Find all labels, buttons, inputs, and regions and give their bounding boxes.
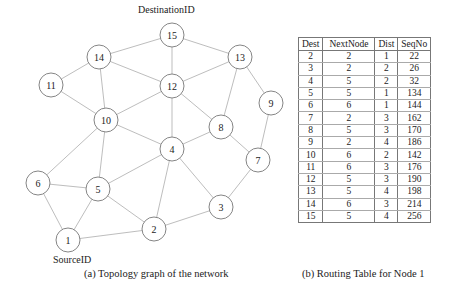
table-cell-dest: 6 xyxy=(299,100,323,112)
node-label: 13 xyxy=(235,52,245,63)
node-12: 12 xyxy=(160,74,184,98)
node-14: 14 xyxy=(87,45,111,69)
table-cell-seqno: 134 xyxy=(398,87,431,99)
table-cell-dest: 10 xyxy=(299,149,323,161)
table-cell-dist: 3 xyxy=(375,112,398,124)
node-4: 4 xyxy=(160,137,184,161)
table-cell-seqno: 198 xyxy=(398,186,431,198)
table-cell-dest: 7 xyxy=(299,112,323,124)
node-label: 4 xyxy=(170,144,175,155)
table-cell-dist: 4 xyxy=(375,137,398,149)
node-label: 9 xyxy=(269,98,274,109)
table-row: 1062142 xyxy=(299,149,431,161)
table-cell-nextnode: 6 xyxy=(323,161,375,173)
table-cell-dest: 3 xyxy=(299,63,323,75)
table-cell-dist: 1 xyxy=(375,51,398,63)
column-header-seqno: SeqNo xyxy=(398,38,431,51)
table-cell-dest: 8 xyxy=(299,124,323,136)
table-cell-seqno: 162 xyxy=(398,112,431,124)
table-row: 1354198 xyxy=(299,186,431,198)
node-9: 9 xyxy=(259,91,283,115)
table-cell-dest: 13 xyxy=(299,186,323,198)
node-label: 14 xyxy=(94,52,104,63)
table-cell-seqno: 176 xyxy=(398,161,431,173)
node-label: 8 xyxy=(219,122,224,133)
node-6: 6 xyxy=(26,171,50,195)
table-row: 1554256 xyxy=(299,210,431,222)
node-label: 3 xyxy=(219,202,224,213)
node-1: 1 xyxy=(56,228,80,252)
node-label: 6 xyxy=(36,178,41,189)
node-15: 15 xyxy=(160,23,184,47)
table-cell-dest: 9 xyxy=(299,137,323,149)
table-row: 22122 xyxy=(299,51,431,63)
routing-table: Dest NextNode Dist SeqNo 221223222645232… xyxy=(298,37,431,223)
table-cell-seqno: 170 xyxy=(398,124,431,136)
node-label: 10 xyxy=(101,115,111,126)
edge-10-6 xyxy=(38,120,106,183)
table-cell-dist: 3 xyxy=(375,124,398,136)
table-cell-dist: 4 xyxy=(375,186,398,198)
table-cell-nextnode: 5 xyxy=(323,186,375,198)
column-header-dist: Dist xyxy=(375,38,398,51)
table-row: 924186 xyxy=(299,137,431,149)
topology-graph: 123456789101112131415 xyxy=(0,0,300,287)
table-cell-nextnode: 2 xyxy=(323,112,375,124)
table-cell-nextnode: 6 xyxy=(323,198,375,210)
node-label: 7 xyxy=(256,155,261,166)
table-cell-seqno: 144 xyxy=(398,100,431,112)
node-label: 2 xyxy=(152,224,157,235)
table-row: 723162 xyxy=(299,112,431,124)
table-cell-nextnode: 5 xyxy=(323,210,375,222)
table-cell-dest: 14 xyxy=(299,198,323,210)
table-cell-seqno: 256 xyxy=(398,210,431,222)
table-cell-nextnode: 2 xyxy=(323,51,375,63)
table-cell-seqno: 190 xyxy=(398,173,431,185)
destination-label: DestinationID xyxy=(138,4,195,15)
edge-2-1 xyxy=(68,229,154,240)
column-header-nextnode: NextNode xyxy=(323,38,375,51)
table-row: 661144 xyxy=(299,100,431,112)
node-10: 10 xyxy=(94,108,118,132)
table-cell-dist: 3 xyxy=(375,173,398,185)
table-cell-dest: 15 xyxy=(299,210,323,222)
table-cell-seqno: 22 xyxy=(398,51,431,63)
table-cell-dist: 3 xyxy=(375,161,398,173)
node-label: 5 xyxy=(96,184,101,195)
table-cell-dest: 5 xyxy=(299,87,323,99)
table-cell-dest: 12 xyxy=(299,173,323,185)
table-cell-dist: 2 xyxy=(375,149,398,161)
table-cell-nextnode: 5 xyxy=(323,173,375,185)
table-cell-nextnode: 5 xyxy=(323,124,375,136)
table-row: 551134 xyxy=(299,87,431,99)
table-cell-seqno: 142 xyxy=(398,149,431,161)
node-label: 12 xyxy=(167,81,177,92)
table-cell-seqno: 32 xyxy=(398,75,431,87)
table-row: 853170 xyxy=(299,124,431,136)
table-cell-nextnode: 6 xyxy=(323,149,375,161)
node-8: 8 xyxy=(209,115,233,139)
table-cell-dest: 11 xyxy=(299,161,323,173)
table-cell-dist: 3 xyxy=(375,198,398,210)
table-caption: (b) Routing Table for Node 1 xyxy=(302,268,424,279)
table-header-row: Dest NextNode Dist SeqNo xyxy=(299,38,431,51)
source-label: SourceID xyxy=(53,254,91,265)
table-cell-nextnode: 5 xyxy=(323,75,375,87)
table-cell-dist: 2 xyxy=(375,63,398,75)
table-row: 1463214 xyxy=(299,198,431,210)
table-cell-dest: 2 xyxy=(299,51,323,63)
node-label: 15 xyxy=(167,30,177,41)
node-5: 5 xyxy=(86,177,110,201)
table-cell-dist: 2 xyxy=(375,75,398,87)
table-cell-nextnode: 2 xyxy=(323,137,375,149)
table-row: 45232 xyxy=(299,75,431,87)
table-cell-dist: 1 xyxy=(375,100,398,112)
edge-4-5 xyxy=(98,149,172,189)
column-header-dest: Dest xyxy=(299,38,323,51)
node-11: 11 xyxy=(39,73,63,97)
table-cell-seqno: 214 xyxy=(398,198,431,210)
table-cell-dist: 1 xyxy=(375,87,398,99)
table-cell-nextnode: 5 xyxy=(323,87,375,99)
graph-caption: (a) Topology graph of the network xyxy=(84,268,229,279)
node-2: 2 xyxy=(142,217,166,241)
